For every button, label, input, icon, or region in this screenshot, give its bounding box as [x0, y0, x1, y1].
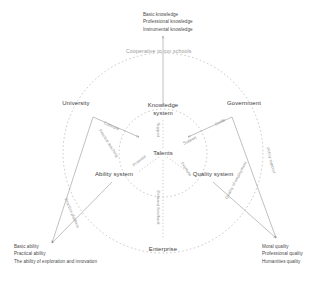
- quality-outcome-line-1: Moral quality: [262, 243, 303, 250]
- knowledge-outcomes-block: Basic knowledge Professional knowledge I…: [143, 11, 193, 33]
- ability-outcome-line-2: Practical ability: [14, 250, 100, 257]
- node-knowledge-system-line1: Knowledge system: [138, 101, 188, 117]
- node-university: University: [52, 99, 100, 108]
- ability-outcomes-block: Basic ability Practical ability The abil…: [14, 243, 100, 265]
- knowledge-outcome-line-2: Professional knowledge: [143, 18, 193, 25]
- ability-outcome-line-1: Basic ability: [14, 243, 100, 250]
- node-talents: Talents: [145, 149, 181, 158]
- ability-outcome-line-3: The ability of exploration and innovatio…: [14, 258, 100, 265]
- connector-quality-outcomes: [213, 182, 276, 238]
- quality-outcomes-block: Moral quality Professional quality Human…: [262, 243, 303, 265]
- node-quality-system: Quality system: [191, 170, 235, 178]
- node-knowledge-system: Knowledge system: [138, 101, 188, 117]
- node-ability-system-line1: Ability system: [92, 170, 136, 178]
- knowledge-outcome-line-1: Basic knowledge: [143, 11, 193, 18]
- quality-outcome-line-2: Professional quality: [262, 250, 303, 257]
- diagram-canvas: Cooperative to run schools University Go…: [0, 0, 326, 284]
- connector-university-ability: [52, 117, 93, 243]
- diagram-vector-layer: [0, 0, 326, 284]
- knowledge-outcome-line-3: Instrumental knowledge: [143, 26, 193, 33]
- edge-label-knowledge-talents: Support: [156, 123, 161, 138]
- node-enterprise: Enterprise: [138, 245, 188, 254]
- ring-label: Cooperative to run schools: [126, 48, 192, 54]
- quality-outcome-line-3: Humanities quality: [262, 258, 303, 265]
- node-ability-system: Ability system: [92, 170, 136, 178]
- node-government: Government: [218, 99, 270, 108]
- edge-label-talents-enterprise: Demand feedback: [156, 191, 161, 225]
- node-quality-system-line1: Quality system: [191, 170, 235, 178]
- connector-ability-outcomes: [52, 182, 112, 243]
